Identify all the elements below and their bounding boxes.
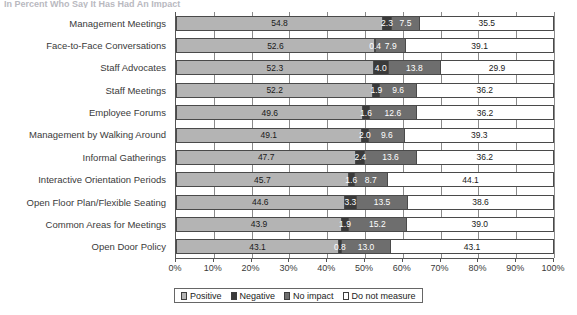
bar-segment-positive: 45.7 xyxy=(176,172,349,187)
bar-value-label: 1.6 xyxy=(360,108,372,118)
category-label: Face-to-Face Conversations xyxy=(46,34,166,56)
legend-swatch-icon xyxy=(181,292,187,300)
bar-row: 43.91.915.239.0 xyxy=(176,217,553,232)
bar-segment-positive: 49.6 xyxy=(176,105,363,120)
bar-segment-positive: 52.3 xyxy=(176,60,374,75)
bar-segment-do-not-measure: 44.1 xyxy=(388,172,555,187)
bar-value-label: 36.2 xyxy=(476,85,493,95)
chart-legend: PositiveNegativeNo impactDo not measure xyxy=(174,288,423,303)
legend-label: No impact xyxy=(293,291,334,301)
gridline xyxy=(554,12,555,258)
bar-row: 44.63.313.538.6 xyxy=(176,195,553,210)
category-label: Informal Gatherings xyxy=(83,146,166,168)
bar-value-label: 13.8 xyxy=(406,63,423,73)
bar-value-label: 12.6 xyxy=(385,108,402,118)
bar-row: 52.34.013.829.9 xyxy=(176,60,553,75)
x-tick xyxy=(175,258,176,262)
bar-row: 45.71.68.744.1 xyxy=(176,172,553,187)
bar-value-label: 7.5 xyxy=(400,18,412,28)
bar-segment-do-not-measure: 39.3 xyxy=(405,128,554,143)
category-label: Staff Meetings xyxy=(105,79,166,101)
x-tick-label: 40% xyxy=(317,263,335,273)
category-axis-labels: Management MeetingsFace-to-Face Conversa… xyxy=(0,12,172,258)
bar-value-label: 13.6 xyxy=(382,152,399,162)
bar-segment-do-not-measure: 43.1 xyxy=(391,239,554,254)
legend-item[interactable]: No impact xyxy=(284,291,334,301)
x-tick xyxy=(288,258,289,262)
bar-segment-positive: 52.6 xyxy=(176,38,375,53)
bar-segment-no-impact: 13.0 xyxy=(342,239,391,254)
bar-row: 43.10.813.043.1 xyxy=(176,239,553,254)
bar-value-label: 36.2 xyxy=(476,152,493,162)
x-tick xyxy=(251,258,252,262)
legend-item[interactable]: Do not measure xyxy=(343,291,416,301)
bar-row: 47.72.413.636.2 xyxy=(176,150,553,165)
x-tick xyxy=(326,258,327,262)
bar-value-label: 13.5 xyxy=(374,197,391,207)
legend-swatch-icon xyxy=(343,292,349,300)
bar-value-label: 39.1 xyxy=(471,41,488,51)
bar-segment-do-not-measure: 38.6 xyxy=(408,195,554,210)
x-tick-label: 0% xyxy=(168,263,181,273)
bar-value-label: 39.0 xyxy=(472,219,489,229)
bar-segment-no-impact: 8.7 xyxy=(355,172,388,187)
bar-segment-positive: 52.2 xyxy=(176,83,373,98)
bar-value-label: 2.3 xyxy=(381,18,393,28)
bar-row: 54.82.37.535.5 xyxy=(176,16,553,31)
bar-value-label: 54.8 xyxy=(271,18,288,28)
legend-item[interactable]: Negative xyxy=(231,291,276,301)
bar-row: 49.12.09.639.3 xyxy=(176,128,553,143)
x-tick-label: 20% xyxy=(242,263,260,273)
x-tick-label: 100% xyxy=(541,263,564,273)
bar-segment-positive: 43.9 xyxy=(176,217,342,232)
bar-segment-no-impact: 7.5 xyxy=(392,16,420,31)
bar-value-label: 47.7 xyxy=(258,152,275,162)
bar-value-label: 36.2 xyxy=(477,108,494,118)
bar-segment-negative: 2.3 xyxy=(383,16,392,31)
bar-segment-no-impact: 13.5 xyxy=(357,195,408,210)
x-tick xyxy=(213,258,214,262)
bar-segment-negative: 2.4 xyxy=(356,150,365,165)
bar-value-label: 0.4 xyxy=(369,41,381,51)
bar-value-label: 9.6 xyxy=(392,85,404,95)
bar-segment-positive: 47.7 xyxy=(176,150,356,165)
legend-swatch-icon xyxy=(231,292,237,300)
bar-value-label: 45.7 xyxy=(254,175,271,185)
bar-value-label: 1.9 xyxy=(370,85,382,95)
bar-value-label: 8.7 xyxy=(365,175,377,185)
bar-value-label: 3.3 xyxy=(344,197,356,207)
bar-segment-negative: 1.9 xyxy=(342,217,349,232)
bar-value-label: 52.3 xyxy=(267,63,284,73)
chart-title-clipped: In Percent Who Say It Has Had An Impact xyxy=(4,0,234,8)
category-label: Management by Walking Around xyxy=(29,124,166,146)
x-tick-label: 60% xyxy=(393,263,411,273)
category-label: Employee Forums xyxy=(89,101,166,123)
bar-value-label: 49.1 xyxy=(261,130,278,140)
x-tick-label: 90% xyxy=(506,263,524,273)
legend-swatch-icon xyxy=(284,292,290,300)
bar-segment-do-not-measure: 39.0 xyxy=(407,217,554,232)
bar-segment-do-not-measure: 36.2 xyxy=(417,150,554,165)
bar-value-label: 43.1 xyxy=(464,242,481,252)
bar-segment-do-not-measure: 29.9 xyxy=(441,60,554,75)
bar-segment-no-impact: 13.8 xyxy=(389,60,441,75)
plot-area: 54.82.37.535.552.60.47.939.152.34.013.82… xyxy=(175,12,553,258)
bar-value-label: 1.9 xyxy=(339,219,351,229)
category-label: Open Floor Plan/Flexible Seating xyxy=(27,191,166,213)
bar-segment-positive: 49.1 xyxy=(176,128,362,143)
bar-segment-no-impact: 13.6 xyxy=(365,150,416,165)
x-tick-label: 80% xyxy=(468,263,486,273)
bar-segment-positive: 44.6 xyxy=(176,195,345,210)
legend-label: Negative xyxy=(240,291,276,301)
bar-value-label: 0.8 xyxy=(334,242,346,252)
category-label: Management Meetings xyxy=(69,12,166,34)
bar-segment-do-not-measure: 36.2 xyxy=(417,105,554,120)
bar-value-label: 9.6 xyxy=(381,130,393,140)
stacked-bar-chart: In Percent Who Say It Has Had An Impact … xyxy=(0,0,577,315)
legend-item[interactable]: Positive xyxy=(181,291,222,301)
category-label: Open Door Policy xyxy=(92,236,166,258)
x-tick xyxy=(515,258,516,262)
x-tick xyxy=(440,258,441,262)
bar-value-label: 35.5 xyxy=(479,18,496,28)
bar-value-label: 1.6 xyxy=(345,175,357,185)
